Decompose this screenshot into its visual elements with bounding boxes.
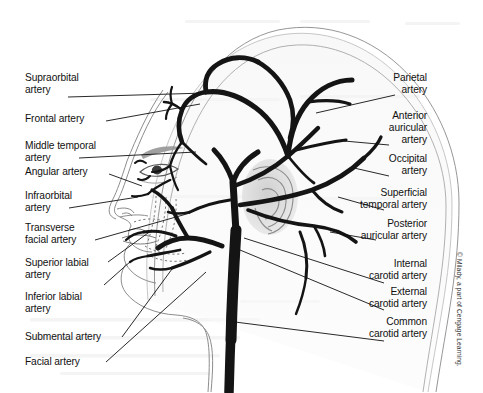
label-frontal-artery: Frontal artery — [25, 113, 84, 125]
label-superficial-temporal-artery: Superficial temporal artery — [307, 187, 427, 211]
label-infraorbital-artery: Infraorbital artery — [25, 190, 72, 214]
label-transverse-facial-artery: Transverse facial artery — [25, 222, 76, 246]
label-submental-artery: Submental artery — [25, 331, 101, 343]
label-supraorbital-artery: Supraorbital artery — [25, 72, 79, 96]
label-common-carotid-artery: Common carotid artery — [307, 316, 427, 340]
label-anterior-auricular-artery: Anterior auricular artery — [307, 110, 427, 147]
copyright-credit: © Milady, a part of Cengage Learning. — [456, 252, 463, 372]
label-middle-temporal-artery: Middle temporal artery — [25, 140, 96, 164]
label-facial-artery: Facial artery — [25, 356, 80, 368]
label-occipital-artery: Occipital artery — [307, 153, 427, 177]
label-inferior-labial-artery: Inferior labial artery — [25, 291, 82, 315]
label-internal-carotid-artery: Internal carotid artery — [307, 258, 427, 282]
label-external-carotid-artery: External carotid artery — [307, 286, 427, 310]
artery-diagram-figure: Supraorbital artery Frontal artery Middl… — [0, 0, 483, 393]
label-angular-artery: Angular artery — [25, 166, 88, 178]
label-posterior-auricular-artery: Posterior auricular artery — [307, 218, 427, 242]
label-parietal-artery: Parietal artery — [307, 72, 427, 96]
nose-detail — [117, 208, 134, 216]
label-superior-labial-artery: Superior labial artery — [25, 257, 89, 281]
